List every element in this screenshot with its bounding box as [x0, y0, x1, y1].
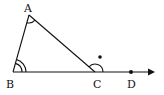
extra-dot — [98, 55, 102, 59]
label-b: B — [6, 78, 14, 91]
angle-b-arc-outer — [17, 60, 27, 73]
label-c: C — [93, 78, 101, 91]
point-d-dot — [129, 70, 133, 74]
angle-b-arc-inner — [15, 63, 22, 72]
angle-a-arc — [27, 20, 35, 23]
label-d: D — [127, 78, 136, 91]
triangle-diagram: A B C D — [0, 0, 164, 95]
segment-ac — [29, 15, 95, 72]
arrow-head-icon — [148, 69, 155, 76]
label-a: A — [23, 2, 33, 15]
